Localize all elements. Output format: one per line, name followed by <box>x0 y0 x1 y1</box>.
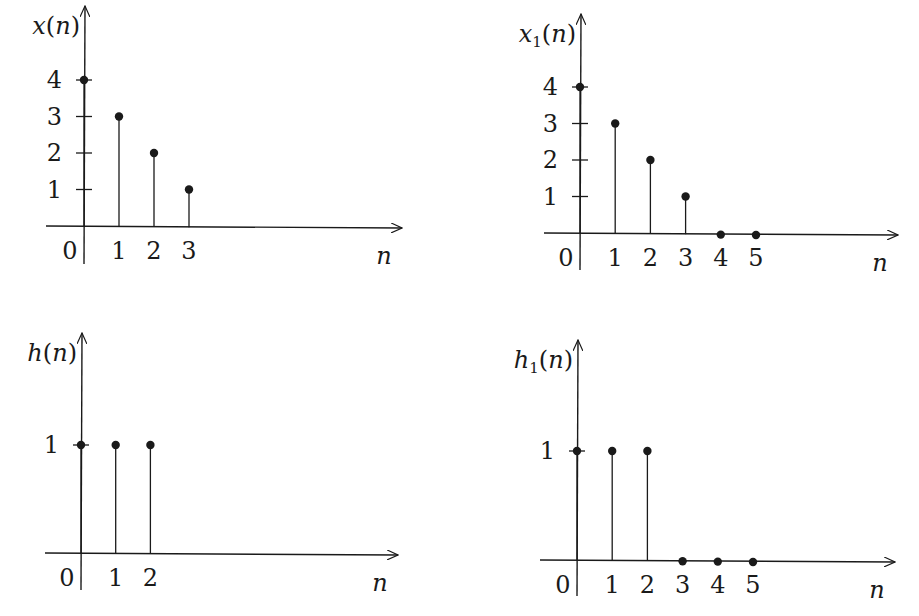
plot-h1-n: 1012345nh1(n) <box>514 340 895 604</box>
y-axis-label: x1(n) <box>519 20 576 51</box>
x-tick-label: 0 <box>62 237 77 265</box>
stem-marker <box>185 185 193 193</box>
x-tick-label: 3 <box>675 571 690 599</box>
x-axis-label: n <box>376 242 391 270</box>
y-tick-label: 4 <box>47 66 62 94</box>
x-tick-label: 1 <box>108 564 123 592</box>
x-tick-label: 3 <box>181 237 196 265</box>
x-tick-label: 2 <box>643 244 658 272</box>
stem-marker <box>150 149 158 157</box>
stem-marker <box>146 441 154 449</box>
plot-h-n: 1012nh(n) <box>27 333 398 597</box>
x-tick-label: 0 <box>558 244 573 272</box>
stem-marker <box>643 447 651 455</box>
x-axis-label: n <box>372 569 387 597</box>
stem-marker <box>681 192 689 200</box>
stem-marker <box>717 230 725 238</box>
stem-marker <box>749 558 757 566</box>
x-axis <box>46 226 402 228</box>
y-tick-label: 3 <box>543 110 558 138</box>
stem-marker <box>608 447 616 455</box>
stem-marker <box>611 119 619 127</box>
y-axis-label: h1(n) <box>514 346 573 377</box>
x-tick-label: 0 <box>59 564 74 592</box>
y-tick-label: 1 <box>540 437 555 465</box>
x-tick-label: 2 <box>640 571 655 599</box>
stem-marker <box>112 441 120 449</box>
x-tick-label: 5 <box>745 571 760 599</box>
y-axis-label: h(n) <box>27 339 77 367</box>
stem-marker <box>573 447 581 455</box>
plot-x-n: 12340123nx(n) <box>32 6 402 270</box>
y-tick-label: 1 <box>543 183 558 211</box>
x-tick-label: 4 <box>710 571 725 599</box>
y-tick-label: 2 <box>543 146 558 174</box>
y-tick-label: 3 <box>47 103 62 131</box>
stem-marker <box>714 557 722 565</box>
stem-marker <box>77 441 85 449</box>
x-axis-label: n <box>869 576 884 604</box>
x-tick-label: 1 <box>605 571 620 599</box>
stem-plots-figure: 12340123nx(n) 1234012345nx1(n) 1012nh(n)… <box>0 0 919 616</box>
x-tick-label: 4 <box>713 244 728 272</box>
y-tick-label: 1 <box>47 176 62 204</box>
x-tick-label: 5 <box>748 244 763 272</box>
y-tick-label: 2 <box>47 139 62 167</box>
x-tick-label: 2 <box>143 564 158 592</box>
x-tick-label: 1 <box>111 237 126 265</box>
x-tick-label: 1 <box>608 244 623 272</box>
plot-x1-n: 1234012345nx1(n) <box>519 14 898 277</box>
y-tick-label: 1 <box>44 431 59 459</box>
stem-marker <box>80 76 88 84</box>
stem-marker <box>678 557 686 565</box>
x-axis-label: n <box>872 249 887 277</box>
y-tick-label: 4 <box>543 73 558 101</box>
x-tick-label: 0 <box>555 571 570 599</box>
stem-marker <box>752 231 760 239</box>
x-axis <box>45 553 398 555</box>
x-tick-label: 3 <box>678 244 693 272</box>
x-tick-label: 2 <box>146 237 161 265</box>
stem-marker <box>576 83 584 91</box>
stem-marker <box>646 156 654 164</box>
y-axis-label: x(n) <box>32 12 80 40</box>
stem-marker <box>115 112 123 120</box>
